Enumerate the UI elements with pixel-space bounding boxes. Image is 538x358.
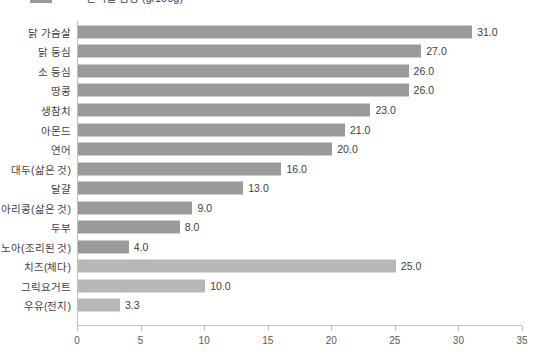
x-tick-mark — [458, 326, 459, 331]
x-tick-label: 30 — [453, 335, 464, 346]
bar-value-label: 8.0 — [185, 221, 200, 233]
bar — [78, 143, 332, 156]
category-label: 대두(삶은 것) — [11, 161, 71, 176]
bar — [78, 103, 370, 116]
bar-value-label: 3.3 — [125, 299, 140, 311]
chart-title-strip: 단백질 함량 (g/100g) — [0, 0, 538, 9]
category-label: 퀴노아(조리된 것) — [0, 239, 71, 254]
bar-value-label: 26.0 — [414, 65, 434, 77]
bar — [78, 84, 409, 97]
bar — [78, 162, 281, 175]
category-label: 우유(전지) — [24, 298, 71, 313]
bar-value-label: 21.0 — [350, 124, 370, 136]
x-tick-mark — [77, 326, 78, 331]
x-tick-label: 0 — [74, 335, 80, 346]
bar-row: 두부8.0 — [0, 218, 538, 238]
chart-title: 단백질 함량 (g/100g) — [86, 0, 183, 5]
bar-row: 땅콩26.0 — [0, 81, 538, 101]
bar-value-label: 4.0 — [134, 241, 149, 253]
x-tick-label: 25 — [389, 335, 400, 346]
category-label: 병아리콩(삶은 것) — [0, 200, 71, 215]
x-tick-label: 5 — [138, 335, 144, 346]
bar-row: 달걀13.0 — [0, 178, 538, 198]
bar-row: 병아리콩(삶은 것)9.0 — [0, 198, 538, 218]
x-tick-mark — [331, 326, 332, 331]
bar-value-label: 10.0 — [210, 280, 230, 292]
x-tick-mark — [395, 326, 396, 331]
category-label: 땅콩 — [51, 83, 71, 98]
bar — [78, 182, 243, 195]
x-tick-mark — [522, 326, 523, 331]
category-label: 아몬드 — [41, 122, 71, 137]
legend-swatch — [30, 0, 52, 3]
bar-value-label: 25.0 — [401, 260, 421, 272]
x-tick-mark — [204, 326, 205, 331]
bar — [78, 45, 421, 58]
bar-row: 아몬드21.0 — [0, 120, 538, 140]
bar-row: 치즈(체다)25.0 — [0, 257, 538, 277]
bar-value-label: 16.0 — [286, 163, 306, 175]
protein-content-bar-chart: 단백질 함량 (g/100g) 05101520253035 닭 가슴살31.0… — [0, 0, 538, 358]
bar — [78, 299, 120, 312]
bar-row: 소 등심26.0 — [0, 61, 538, 81]
category-label: 두부 — [51, 220, 71, 235]
category-label: 소 등심 — [38, 63, 71, 78]
bar — [78, 201, 192, 214]
bar — [78, 221, 180, 234]
bar — [78, 279, 205, 292]
x-tick-label: 10 — [199, 335, 210, 346]
bar — [78, 123, 345, 136]
x-tick-label: 35 — [516, 335, 527, 346]
category-label: 닭 가슴살 — [28, 24, 71, 39]
bar-row: 연어20.0 — [0, 139, 538, 159]
bar-row: 우유(전지)3.3 — [0, 296, 538, 316]
bar-value-label: 27.0 — [426, 45, 446, 57]
bar-value-label: 13.0 — [248, 182, 268, 194]
bar-value-label: 20.0 — [337, 143, 357, 155]
bar — [78, 25, 472, 38]
category-label: 연어 — [51, 142, 71, 157]
plot-area: 05101520253035 닭 가슴살31.0닭 등심27.0소 등심26.0… — [0, 14, 538, 358]
category-label: 달걀 — [51, 181, 71, 196]
x-tick-label: 15 — [262, 335, 273, 346]
bar-value-label: 9.0 — [197, 202, 212, 214]
x-tick-mark — [268, 326, 269, 331]
x-axis-line — [77, 325, 522, 326]
bar — [78, 240, 129, 253]
bar-value-label: 26.0 — [414, 84, 434, 96]
bar-row: 닭 가슴살31.0 — [0, 22, 538, 42]
category-label: 그릭요거트 — [21, 278, 71, 293]
x-tick-label: 20 — [326, 335, 337, 346]
bar-row: 그릭요거트10.0 — [0, 276, 538, 296]
bar-row: 퀴노아(조리된 것)4.0 — [0, 237, 538, 257]
category-label: 닭 등심 — [38, 44, 71, 59]
bar-row: 대두(삶은 것)16.0 — [0, 159, 538, 179]
bar-row: 닭 등심27.0 — [0, 42, 538, 62]
bar-value-label: 23.0 — [375, 104, 395, 116]
bar — [78, 260, 396, 273]
bar-row: 생참치23.0 — [0, 100, 538, 120]
category-label: 치즈(체다) — [24, 259, 71, 274]
bar-value-label: 31.0 — [477, 26, 497, 38]
x-tick-mark — [141, 326, 142, 331]
category-label: 생참치 — [41, 102, 71, 117]
bar — [78, 64, 409, 77]
